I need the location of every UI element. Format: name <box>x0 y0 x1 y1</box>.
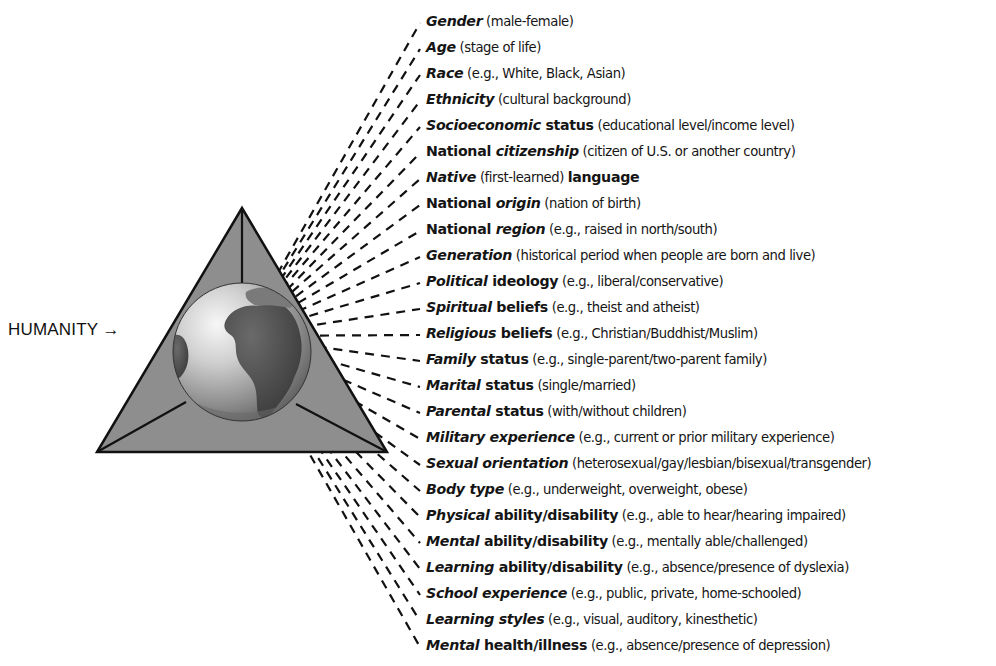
dimension-term: Military experience <box>426 429 575 445</box>
dimension-term: Sexual orientation <box>426 455 568 471</box>
dimension-term: Native <box>426 169 476 185</box>
dimension-description: (stage of life) <box>456 40 541 55</box>
dimension-term: Age <box>426 39 456 55</box>
dimension-description: (e.g., absence/presence of dyslexia) <box>623 560 849 575</box>
dimension-description: (cultural background) <box>494 92 631 107</box>
dimension-term: Socioeconomic <box>426 117 541 133</box>
dimension-term: citizenship <box>496 143 579 159</box>
dimension-item: Physical ability/disability (e.g., able … <box>426 506 846 525</box>
dimension-item: Spiritual beliefs (e.g., theist and athe… <box>426 298 700 317</box>
dimension-term: language <box>568 169 640 185</box>
dimension-term: National <box>426 143 496 159</box>
dimension-item: Mental health/illness (e.g., absence/pre… <box>426 636 830 655</box>
dimension-description: (e.g., raised in north/south) <box>545 222 717 237</box>
dimension-description: (e.g., Christian/Buddhist/Muslim) <box>552 326 757 341</box>
dimension-term: Mental <box>426 533 479 549</box>
dimension-description: (single/married) <box>534 378 636 393</box>
dimension-item: Marital status (single/married) <box>426 376 636 395</box>
dimension-term: ability/disability <box>479 533 608 549</box>
dimension-term: Generation <box>426 247 512 263</box>
dimension-item: Ethnicity (cultural background) <box>426 90 631 109</box>
dimension-description: (heterosexual/gay/lesbian/bisexual/trans… <box>568 456 871 471</box>
dimension-item: National origin (nation of birth) <box>426 194 641 213</box>
dimension-item: Religious beliefs (e.g., Christian/Buddh… <box>426 324 758 343</box>
dimension-item: National citizenship (citizen of U.S. or… <box>426 142 795 161</box>
dimension-description: (e.g., underweight, overweight, obese) <box>504 482 747 497</box>
dimension-term: Mental <box>426 637 479 653</box>
dimension-description: (e.g., public, private, home-schooled) <box>567 586 801 601</box>
humanity-diversity-diagram: HUMANITY→ Gender (male-female)Age (stage… <box>0 0 996 666</box>
dimension-term: ideology <box>488 273 559 289</box>
dimension-item: Military experience (e.g., current or pr… <box>426 428 834 447</box>
dimension-item: Learning styles (e.g., visual, auditory,… <box>426 610 757 629</box>
dimension-term: beliefs <box>492 299 548 315</box>
dimension-item: School experience (e.g., public, private… <box>426 584 801 603</box>
dimension-term: National <box>426 195 496 211</box>
dimension-term: Political <box>426 273 488 289</box>
dimension-item: Mental ability/disability (e.g., mentall… <box>426 532 808 551</box>
dimension-description: (nation of birth) <box>541 196 641 211</box>
dimension-description: (e.g., White, Black, Asian) <box>463 66 625 81</box>
dimension-item: Age (stage of life) <box>426 38 541 57</box>
dimension-description: (e.g., visual, auditory, kinesthetic) <box>544 612 757 627</box>
dimension-term: ability/disability <box>494 559 623 575</box>
dimension-term: ability/disability <box>490 507 619 523</box>
dimension-term: Ethnicity <box>426 91 494 107</box>
right-arrow-icon: → <box>102 320 119 339</box>
dimension-item: Sexual orientation (heterosexual/gay/les… <box>426 454 871 473</box>
dimension-term: status <box>476 351 529 367</box>
dimension-term: Spiritual <box>426 299 492 315</box>
dimension-item: Native (first-learned) language <box>426 168 639 187</box>
dimension-term: Parental <box>426 403 491 419</box>
dimension-item: Learning ability/disability (e.g., absen… <box>426 558 849 577</box>
dimension-item: Generation (historical period when peopl… <box>426 246 815 265</box>
dimension-term: status <box>541 117 594 133</box>
dimension-item: Socioeconomic status (educational level/… <box>426 116 794 135</box>
dimension-description: (first-learned) <box>476 170 567 185</box>
dimension-term: School experience <box>426 585 567 601</box>
humanity-label: HUMANITY→ <box>8 320 120 340</box>
dimension-term: region <box>496 221 546 237</box>
dimension-item: Family status (e.g., single-parent/two-p… <box>426 350 767 369</box>
dimension-item: Gender (male-female) <box>426 12 573 31</box>
dimension-item: Parental status (with/without children) <box>426 402 686 421</box>
dimension-term: National <box>426 221 496 237</box>
dimension-description: (e.g., absence/presence of depression) <box>587 638 830 653</box>
dimension-term: Marital <box>426 377 481 393</box>
dimension-item: Political ideology (e.g., liberal/conser… <box>426 272 723 291</box>
dimension-description: (with/without children) <box>544 404 687 419</box>
dimension-description: (citizen of U.S. or another country) <box>579 144 796 159</box>
dimension-item: Race (e.g., White, Black, Asian) <box>426 64 625 83</box>
dimension-term: Learning styles <box>426 611 544 627</box>
dimension-term: status <box>491 403 544 419</box>
dimension-term: origin <box>496 195 541 211</box>
dimension-term: Family <box>426 351 476 367</box>
dimension-term: Gender <box>426 13 482 29</box>
dimension-term: health/illness <box>479 637 587 653</box>
dimension-term: status <box>481 377 534 393</box>
dimension-description: (educational level/income level) <box>594 118 795 133</box>
dimension-term: Race <box>426 65 463 81</box>
dimension-description: (e.g., current or prior military experie… <box>575 430 835 445</box>
dimension-term: Body type <box>426 481 504 497</box>
dimension-description: (e.g., single-parent/two-parent family) <box>529 352 767 367</box>
dimension-description: (e.g., able to hear/hearing impaired) <box>618 508 846 523</box>
dimension-description: (male-female) <box>482 14 573 29</box>
dimension-term: Religious <box>426 325 496 341</box>
dimension-term: beliefs <box>496 325 552 341</box>
dimension-term: Learning <box>426 559 494 575</box>
dimension-term: Physical <box>426 507 490 523</box>
dimension-item: National region (e.g., raised in north/s… <box>426 220 717 239</box>
dimension-description: (e.g., theist and atheist) <box>548 300 700 315</box>
humanity-label-text: HUMANITY <box>8 320 98 339</box>
dimension-description: (e.g., mentally able/challenged) <box>608 534 808 549</box>
dimension-description: (e.g., liberal/conservative) <box>558 274 723 289</box>
dimension-item: Body type (e.g., underweight, overweight… <box>426 480 747 499</box>
dimension-description: (historical period when people are born … <box>512 248 815 263</box>
